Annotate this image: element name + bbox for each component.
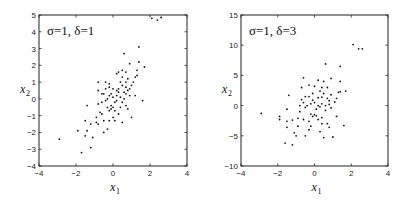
data-point — [134, 76, 136, 78]
data-point — [308, 84, 310, 86]
data-point — [332, 136, 334, 138]
data-point — [114, 110, 116, 112]
y-tick-label: 0 — [32, 95, 37, 104]
data-point — [97, 123, 99, 125]
data-point — [120, 96, 122, 98]
data-point — [110, 105, 112, 107]
data-point — [127, 108, 129, 110]
x-axis-label: x — [109, 180, 116, 194]
x-tick-label: 2 — [349, 169, 354, 178]
data-point — [286, 120, 288, 122]
data-point — [118, 91, 120, 93]
data-point — [292, 144, 294, 146]
data-point — [321, 96, 323, 98]
data-point — [123, 98, 125, 100]
data-point — [125, 105, 127, 107]
data-point — [107, 98, 109, 100]
data-point — [110, 93, 112, 95]
data-point — [352, 44, 354, 46]
data-point — [108, 83, 110, 85]
data-point — [330, 107, 332, 109]
data-point — [301, 87, 303, 89]
data-point — [114, 101, 116, 103]
data-point — [123, 53, 125, 55]
data-point — [101, 93, 103, 95]
x-tick-label: 0 — [312, 169, 317, 178]
x-tick-label: 2 — [148, 169, 153, 178]
y-tick-label: −1 — [27, 112, 37, 121]
data-point — [292, 119, 294, 121]
y-axis-label-subscript: 2 — [228, 89, 232, 98]
data-point — [325, 63, 327, 65]
plot-annotation: σ=1, δ=3 — [249, 23, 296, 38]
data-point — [321, 87, 323, 89]
x-tick-label: −2 — [273, 169, 283, 178]
y-tick-label: 15 — [229, 11, 238, 20]
data-point — [325, 105, 327, 107]
y-axis-label-subscript: 2 — [26, 89, 30, 98]
data-point — [129, 95, 131, 97]
data-point — [123, 91, 125, 93]
data-point — [306, 105, 308, 107]
data-point — [105, 88, 107, 90]
data-point — [95, 116, 97, 118]
data-point — [301, 99, 303, 101]
y-tick-label: −3 — [27, 145, 37, 154]
data-point — [103, 120, 105, 122]
data-point — [131, 116, 133, 118]
data-point — [90, 147, 92, 149]
data-point — [107, 128, 109, 130]
y-tick-label: 3 — [32, 45, 37, 54]
data-point — [129, 63, 131, 65]
plot-annotation: σ=1, δ=1 — [47, 23, 94, 38]
data-point — [86, 130, 88, 132]
data-point — [112, 88, 114, 90]
data-point — [319, 90, 321, 92]
data-point — [134, 95, 136, 97]
data-point — [321, 123, 323, 125]
y-tick-label: 5 — [234, 71, 239, 80]
data-point — [151, 17, 153, 19]
data-point — [136, 69, 138, 71]
data-point — [303, 119, 305, 121]
data-point — [336, 97, 338, 99]
data-point — [323, 93, 325, 95]
data-point — [337, 91, 339, 93]
data-point — [297, 125, 299, 127]
data-point — [120, 106, 122, 108]
data-point — [321, 117, 323, 119]
y-tick-label: −5 — [229, 132, 239, 141]
data-point — [323, 81, 325, 83]
data-point — [101, 113, 103, 115]
data-point — [314, 114, 316, 116]
data-point — [81, 152, 83, 154]
data-point — [303, 102, 305, 104]
x-tick-label: 4 — [185, 169, 190, 178]
data-point — [303, 77, 305, 79]
y-axis-label: x — [221, 82, 228, 96]
data-point — [319, 131, 321, 133]
y-tick-label: 0 — [234, 102, 239, 111]
data-point — [308, 120, 310, 122]
data-point — [330, 94, 332, 96]
data-point — [361, 48, 363, 50]
data-point — [95, 121, 97, 123]
data-point — [121, 69, 123, 71]
data-point — [358, 48, 360, 50]
data-point — [121, 121, 123, 123]
data-point — [312, 93, 314, 95]
data-point — [339, 81, 341, 83]
data-point — [323, 137, 325, 139]
data-point — [125, 81, 127, 83]
data-point — [132, 81, 134, 83]
data-point — [339, 65, 341, 67]
data-point — [112, 106, 114, 108]
data-point — [326, 123, 328, 125]
y-tick-label: 5 — [32, 11, 37, 20]
data-point — [343, 125, 345, 127]
data-point — [118, 88, 120, 90]
data-point — [286, 108, 288, 110]
data-point — [330, 78, 332, 80]
y-tick-label: −4 — [27, 162, 37, 171]
data-point — [131, 85, 133, 87]
